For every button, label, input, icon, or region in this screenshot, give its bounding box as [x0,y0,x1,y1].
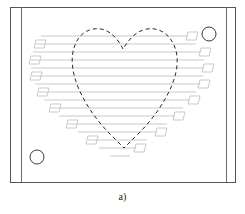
hole-bottom-left [30,150,44,164]
hole-top-right [202,27,216,41]
figure-caption: a) [0,191,245,202]
technical-drawing-svg [0,0,245,214]
figure-container: a) [0,0,245,214]
